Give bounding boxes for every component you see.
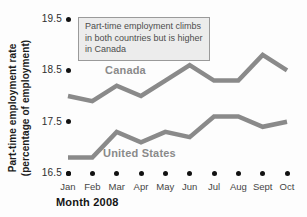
- series-label-united-states: United States: [103, 147, 176, 159]
- y-tick-label-19.5: 19.5: [28, 13, 62, 24]
- tick-dot: [66, 68, 71, 73]
- tick-dot: [236, 171, 241, 176]
- tick-dot: [66, 17, 71, 22]
- y-axis-title: Part-time employment rate (percentage of…: [6, 28, 32, 188]
- series-line-canada: [68, 55, 287, 101]
- x-tick-label-oct: Oct: [273, 181, 301, 192]
- tick-dot: [66, 171, 71, 176]
- tick-dot: [66, 119, 71, 124]
- x-axis-title: Month 2008: [56, 196, 119, 208]
- y-axis-title-line2: (percentage of employment): [19, 28, 32, 188]
- y-tick-label-16.5: 16.5: [28, 167, 62, 178]
- y-tick-label-17.5: 17.5: [28, 116, 62, 127]
- tick-dot: [90, 171, 95, 176]
- tick-dot: [285, 171, 290, 176]
- y-tick-label-18.5: 18.5: [28, 64, 62, 75]
- part-time-employment-chart: Part-time employment rate (percentage of…: [0, 0, 307, 217]
- y-axis-title-line1: Part-time employment rate: [6, 28, 19, 188]
- series-line-united-states: [68, 117, 287, 158]
- tick-dot: [163, 171, 168, 176]
- tick-dot: [260, 171, 265, 176]
- annotation-box: Part-time employment climbs in both coun…: [78, 17, 210, 61]
- tick-dot: [114, 171, 119, 176]
- series-label-canada: Canada: [105, 64, 146, 76]
- tick-dot: [187, 171, 192, 176]
- tick-dot: [139, 171, 144, 176]
- tick-dot: [212, 171, 217, 176]
